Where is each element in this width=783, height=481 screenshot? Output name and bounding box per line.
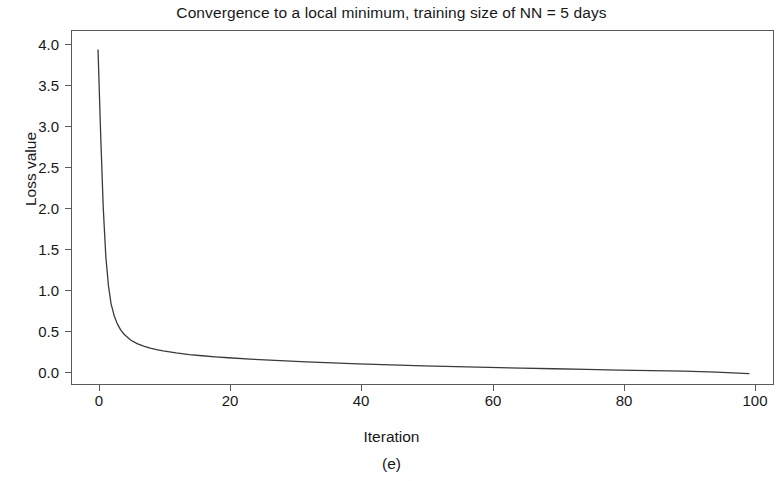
x-axis-label: Iteration — [0, 428, 783, 446]
figure-caption: (e) — [0, 455, 783, 473]
y-axis-label: Loss value — [22, 39, 40, 299]
x-tick-label: 100 — [725, 392, 783, 409]
x-axis-tick-labels: 0 20 40 60 80 100 — [0, 0, 783, 481]
x-tick-label: 80 — [594, 392, 654, 409]
x-tick-label: 60 — [463, 392, 523, 409]
x-tick-label: 0 — [69, 392, 129, 409]
x-tick-label: 20 — [200, 392, 260, 409]
figure-container: Convergence to a local minimum, training… — [0, 0, 783, 481]
x-tick-label: 40 — [331, 392, 391, 409]
